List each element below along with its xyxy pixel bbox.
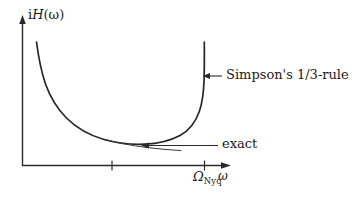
y-axis-label: iH(ω) bbox=[28, 8, 64, 21]
exact-annotation-label: exact bbox=[222, 137, 257, 150]
x-axis-label: ω bbox=[218, 170, 228, 182]
y-axis-label-function: H bbox=[32, 7, 43, 22]
figure-canvas: iH(ω) ΩNyq ω Simpson's 1/3-rule exact bbox=[0, 0, 360, 200]
x-axis-arrowhead bbox=[221, 162, 231, 169]
simpson-annotation-leader bbox=[203, 73, 223, 79]
plot-svg bbox=[0, 0, 360, 200]
y-axis-label-variable: ω bbox=[49, 7, 60, 22]
y-axis-arrowhead bbox=[19, 15, 26, 24]
simpson-annotation-label: Simpson's 1/3-rule bbox=[226, 68, 349, 81]
nyquist-symbol: Ω bbox=[193, 169, 204, 184]
y-axis-label-close-paren: ) bbox=[59, 7, 64, 22]
y-axis bbox=[19, 15, 26, 166]
simpsons-curve bbox=[37, 42, 205, 144]
